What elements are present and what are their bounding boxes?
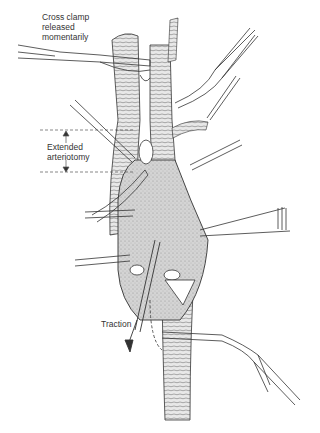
label-line: arteriotomy xyxy=(47,152,90,162)
label-line: Cross clamp xyxy=(42,12,89,22)
clamp-top-right xyxy=(175,28,258,108)
cross-clamp-label: Cross clamp released momentarily xyxy=(42,12,89,42)
label-line: momentarily xyxy=(42,32,89,42)
illustration: Cross clamp released momentarily Extende… xyxy=(0,0,320,433)
forceps-top-right xyxy=(207,76,240,120)
label-line: Extended xyxy=(47,142,90,152)
retractors-right xyxy=(190,140,290,236)
arteriotomy-label: Extended arteriotomy xyxy=(47,142,90,162)
arteriotomy-region xyxy=(118,140,208,350)
label-line: released xyxy=(42,22,89,32)
artery-drawing xyxy=(0,0,320,433)
traction-label: Traction xyxy=(101,319,131,329)
